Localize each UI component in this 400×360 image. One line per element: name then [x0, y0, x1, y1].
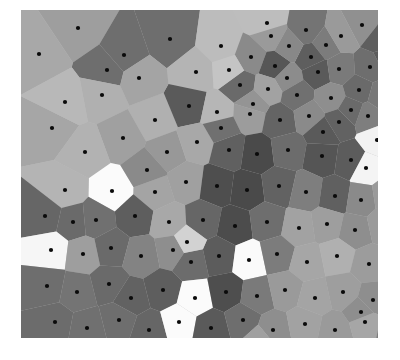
seed-point — [335, 254, 339, 258]
seed-point — [224, 290, 228, 294]
seed-point — [161, 288, 165, 292]
seed-point — [364, 166, 368, 170]
seed-point — [165, 150, 169, 154]
seed-point — [283, 288, 287, 292]
seed-point — [255, 152, 259, 156]
seed-point — [339, 34, 343, 38]
seed-point — [295, 93, 299, 97]
seed-point — [167, 220, 171, 224]
seed-point — [266, 87, 270, 91]
seed-point — [76, 26, 80, 30]
seed-point — [133, 214, 137, 218]
seed-point — [121, 136, 125, 140]
seed-point — [269, 34, 273, 38]
seed-point — [185, 240, 189, 244]
seed-point — [153, 190, 157, 194]
seed-point — [63, 100, 67, 104]
seed-point — [341, 290, 345, 294]
voronoi-figure — [0, 0, 400, 360]
seed-point — [217, 254, 221, 258]
seed-point — [320, 154, 324, 158]
seed-point — [85, 326, 89, 330]
seed-point — [105, 68, 109, 72]
seed-point — [287, 44, 291, 48]
seed-point — [63, 188, 67, 192]
seed-point — [278, 118, 282, 122]
seed-point — [215, 110, 219, 114]
seed-point — [49, 248, 53, 252]
seed-point — [177, 320, 181, 324]
seed-point — [195, 140, 199, 144]
voronoi-cell — [319, 174, 351, 214]
seed-point — [75, 290, 79, 294]
seed-point — [209, 326, 213, 330]
seed-point — [45, 284, 49, 288]
seed-point — [277, 184, 281, 188]
seed-point — [333, 328, 337, 332]
seed-point — [297, 226, 301, 230]
seed-point — [194, 70, 198, 74]
seed-point — [171, 248, 175, 252]
seed-point — [304, 28, 308, 32]
plot-area — [21, 10, 378, 338]
seed-point — [251, 102, 255, 106]
seed-point — [304, 190, 308, 194]
seed-point — [360, 23, 364, 27]
seed-point — [337, 67, 341, 71]
seed-point — [53, 320, 57, 324]
seed-point — [219, 126, 223, 130]
seed-point — [255, 294, 259, 298]
seed-point — [245, 188, 249, 192]
seed-point — [325, 222, 329, 226]
seed-point — [187, 104, 191, 108]
seed-point — [83, 150, 87, 154]
seed-point — [316, 70, 320, 74]
seed-point — [303, 322, 307, 326]
seed-point — [50, 126, 54, 130]
seed-point — [81, 252, 85, 256]
seed-point — [367, 262, 371, 266]
seed-point — [285, 76, 289, 80]
seed-point — [324, 43, 328, 47]
seed-point — [94, 218, 98, 222]
seed-point — [107, 282, 111, 286]
seed-point — [184, 180, 188, 184]
seed-point — [363, 320, 367, 324]
seed-point — [305, 260, 309, 264]
seed-point — [309, 55, 313, 59]
seed-point — [238, 83, 242, 87]
seed-point — [145, 168, 149, 172]
seed-point — [168, 37, 172, 41]
seed-point — [321, 130, 325, 134]
seed-point — [371, 298, 375, 302]
seed-point — [265, 220, 269, 224]
seed-point — [271, 328, 275, 332]
seed-point — [227, 148, 231, 152]
seed-point — [359, 310, 363, 314]
voronoi-cell — [21, 232, 68, 270]
seed-point — [357, 88, 361, 92]
seed-point — [349, 158, 353, 162]
voronoi-canvas — [21, 10, 378, 338]
seed-point — [233, 224, 237, 228]
seed-point — [109, 246, 113, 250]
seed-point — [286, 148, 290, 152]
seed-point — [275, 252, 279, 256]
seed-point — [71, 220, 75, 224]
seed-point — [122, 53, 126, 57]
seed-point — [219, 44, 223, 48]
seed-point — [43, 214, 47, 218]
seed-point — [368, 65, 372, 69]
seed-point — [248, 112, 252, 116]
seed-point — [329, 96, 333, 100]
seed-point — [337, 120, 341, 124]
seed-point — [353, 228, 357, 232]
seed-point — [193, 296, 197, 300]
seed-point — [147, 328, 151, 332]
seed-point — [273, 64, 277, 68]
seed-point — [137, 76, 141, 80]
seed-point — [153, 118, 157, 122]
seed-point — [100, 93, 104, 97]
seed-point — [241, 318, 245, 322]
seed-point — [247, 258, 251, 262]
